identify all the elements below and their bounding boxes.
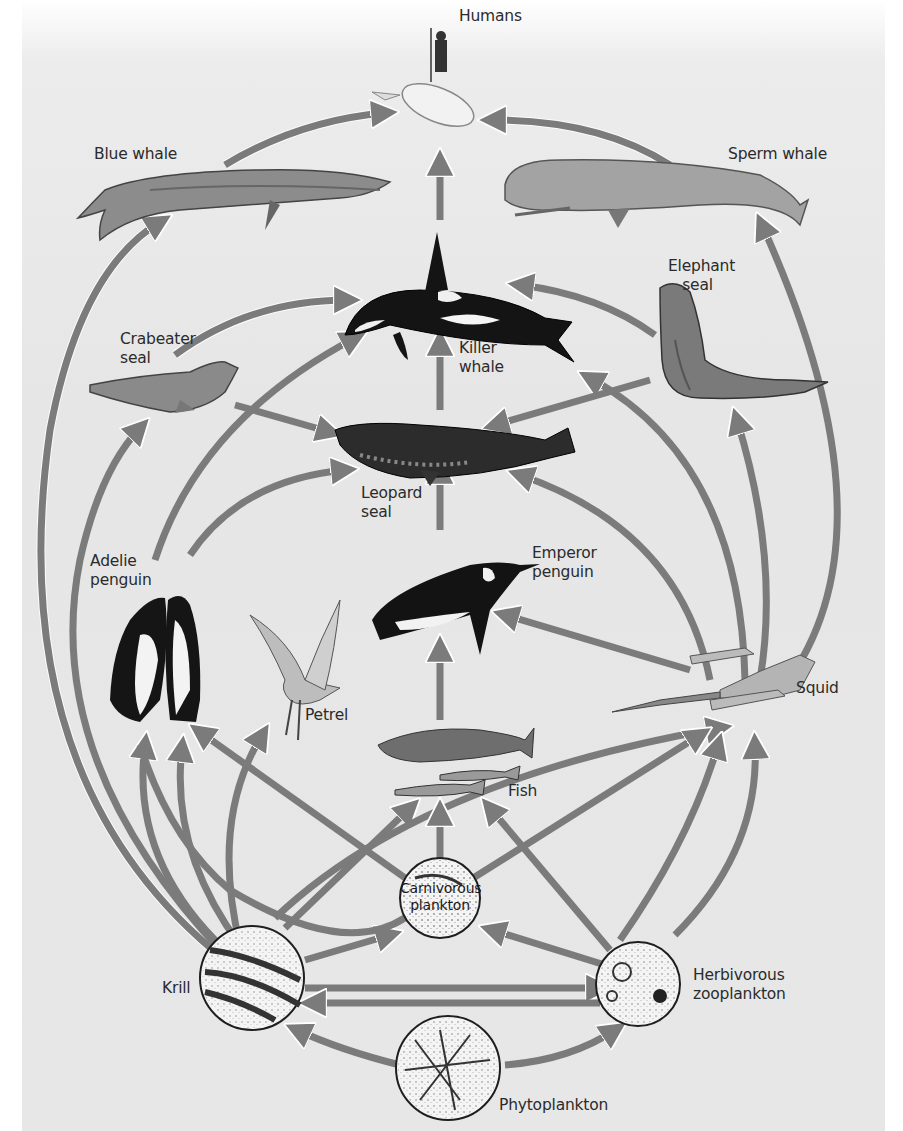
phytoplankton-circle: [396, 1016, 500, 1120]
arrow-squid-killerwhale: [590, 378, 745, 680]
elephant-seal-illustration: [660, 284, 828, 399]
arrow-phyto-krill: [297, 1030, 400, 1065]
leopard-seal-illustration: [335, 423, 575, 486]
blue-whale-illustration: [78, 170, 390, 240]
label-humans: Humans: [459, 7, 522, 26]
crabeater-seal-illustration: [90, 362, 238, 413]
label-adelie-penguin: Adelie penguin: [90, 552, 152, 590]
label-crabeater-seal: Crabeater seal: [120, 330, 196, 368]
label-sperm-whale: Sperm whale: [728, 145, 827, 164]
arrow-adelie-killerwhale: [155, 338, 355, 560]
humans-illustration: [372, 28, 480, 135]
arrow-adelie-leopard: [190, 470, 345, 555]
arrow-crabeater-killerwhale: [175, 300, 348, 355]
label-phytoplankton: Phytoplankton: [499, 1096, 608, 1115]
arrow-herbivorous-squid2: [675, 745, 755, 935]
herbivorous-zooplankton-circle: [596, 942, 680, 1026]
arrow-herbivorous-carnivorous: [492, 930, 605, 965]
label-emperor-penguin: Emperor penguin: [532, 544, 597, 582]
label-fish: Fish: [508, 782, 537, 801]
arrow-phyto-herbivorous: [505, 1030, 615, 1065]
label-elephant-seal: Elephant seal: [668, 257, 735, 295]
label-blue-whale: Blue whale: [94, 145, 177, 164]
arrow-squid-emperor: [505, 615, 690, 670]
krill-circle: [200, 926, 304, 1030]
label-carnivorous-plankton: Carnivorous plankton: [400, 880, 480, 914]
label-herbivorous-zooplankton: Herbivorous zooplankton: [693, 966, 786, 1004]
sperm-whale-illustration: [505, 160, 808, 228]
label-krill: Krill: [162, 979, 190, 998]
arrow-crabeater-leopard: [235, 405, 330, 432]
label-petrel: Petrel: [305, 706, 348, 725]
adelie-penguin-illustration: [110, 596, 200, 722]
arrow-krill-carnivorous: [305, 935, 390, 960]
emperor-penguin-illustration: [372, 563, 540, 656]
arrow-bluewhale-humans: [225, 113, 385, 165]
label-leopard-seal: Leopard seal: [361, 484, 422, 522]
arrow-squid-sperm: [762, 225, 837, 685]
label-killer-whale: Killer whale: [459, 339, 504, 377]
label-squid: Squid: [796, 679, 839, 698]
arrow-bluewhale-humans: [225, 113, 385, 165]
arrow-spermwhale-humans: [492, 120, 670, 165]
